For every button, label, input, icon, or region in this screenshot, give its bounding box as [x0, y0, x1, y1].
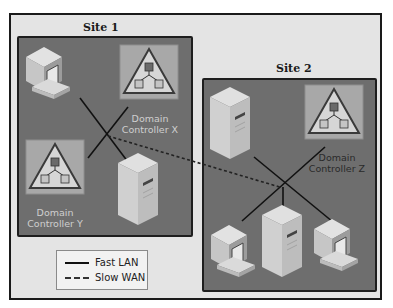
domain-controller-z-icon [305, 85, 363, 139]
dashed-line-icon [65, 277, 89, 279]
domain-controller-y-label: Domain Controller Y [15, 207, 95, 229]
domain-controller-x-icon [120, 45, 178, 99]
solid-line-icon [65, 262, 89, 264]
domain-controller-z-label: Domain Controller Z [297, 152, 377, 174]
server-icon [118, 153, 158, 225]
legend-item-slow-wan: Slow WAN [65, 272, 145, 283]
workstation-icon [314, 219, 358, 271]
legend: Fast LAN Slow WAN [56, 250, 148, 290]
server-icon [262, 205, 302, 277]
legend-item-fast-lan: Fast LAN [65, 257, 138, 268]
server-icon [210, 87, 250, 159]
workstation-icon [211, 225, 255, 277]
workstation-icon [26, 47, 70, 99]
domain-controller-x-label: Domain Controller X [110, 113, 190, 135]
domain-controller-y-icon [26, 140, 84, 194]
